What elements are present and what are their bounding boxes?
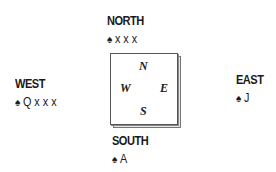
south-cards: ♠A xyxy=(112,152,150,166)
spade-icon: ♠ xyxy=(107,33,112,45)
west-label: WEST xyxy=(15,77,54,91)
east-label: EAST xyxy=(236,73,263,87)
north-spades: x x x xyxy=(115,32,137,46)
north-label: NORTH xyxy=(107,14,144,28)
compass-east: E xyxy=(160,81,168,96)
west-spades: Q x x x xyxy=(23,95,57,109)
south-label: SOUTH xyxy=(112,134,148,148)
compass-west: W xyxy=(120,81,131,96)
east-spades: J xyxy=(244,91,249,105)
east-cards: ♠J xyxy=(236,91,265,105)
spade-icon: ♠ xyxy=(236,92,241,104)
north-cards: ♠x x x xyxy=(107,32,146,46)
south-spades: A xyxy=(120,152,127,166)
compass-table: N W E S xyxy=(110,53,178,125)
spade-icon: ♠ xyxy=(15,96,20,108)
north-hand: NORTH ♠x x x xyxy=(107,14,150,46)
east-hand: EAST ♠J xyxy=(236,73,268,105)
compass-north: N xyxy=(139,59,148,74)
west-hand: WEST ♠Q x x x xyxy=(15,77,61,109)
south-hand: SOUTH ♠A xyxy=(112,134,155,166)
spade-icon: ♠ xyxy=(112,153,117,165)
compass-south: S xyxy=(140,104,147,119)
west-cards: ♠Q x x x xyxy=(15,95,57,109)
